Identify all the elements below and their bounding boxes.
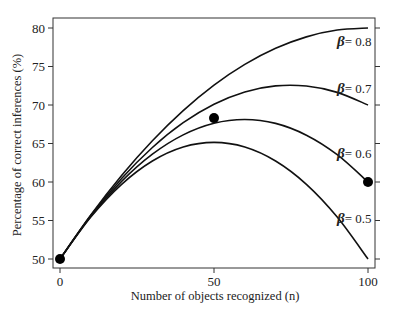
y-tick-label: 75	[32, 59, 45, 74]
y-tick-label: 60	[32, 175, 45, 190]
series-label: β= 0.7	[336, 80, 372, 96]
y-tick-label: 80	[32, 21, 45, 36]
y-axis: 50556065707580	[32, 21, 53, 267]
x-tick-label: 50	[208, 274, 221, 289]
x-tick-label: 100	[358, 274, 378, 289]
x-axis-title: Number of objects recognized (n)	[131, 289, 300, 303]
y-tick-label: 65	[32, 136, 45, 151]
series-label: β= 0.6	[336, 145, 372, 161]
series-line-2	[60, 119, 368, 259]
x-tick-label: 0	[57, 274, 64, 289]
y-axis-right-ticks	[375, 28, 380, 259]
data-point-marker	[363, 177, 373, 187]
data-markers	[55, 113, 373, 264]
y-axis-title: Percentage of correct inferences (%)	[10, 54, 24, 237]
x-axis: 050100	[57, 268, 378, 289]
y-tick-label: 50	[32, 252, 45, 267]
line-chart: 50556065707580 050100 β= 0.8β= 0.7β= 0.6…	[0, 0, 394, 317]
series-curves	[60, 28, 368, 259]
y-tick-label: 55	[32, 213, 45, 228]
series-line-1	[60, 85, 368, 259]
data-point-marker	[55, 254, 65, 264]
series-label: β= 0.5	[336, 210, 372, 226]
data-point-marker	[209, 113, 219, 123]
y-tick-label: 70	[32, 98, 45, 113]
series-line-3	[60, 142, 368, 259]
series-label: β= 0.8	[336, 33, 372, 49]
series-labels: β= 0.8β= 0.7β= 0.6β= 0.5	[336, 33, 372, 226]
